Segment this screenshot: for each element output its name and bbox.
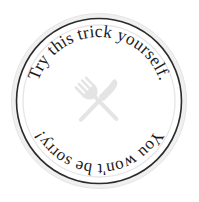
badge-stage: Try this trick yourself. You won't be so… <box>0 0 199 202</box>
circular-seal-badge: Try this trick yourself. You won't be so… <box>0 0 199 202</box>
